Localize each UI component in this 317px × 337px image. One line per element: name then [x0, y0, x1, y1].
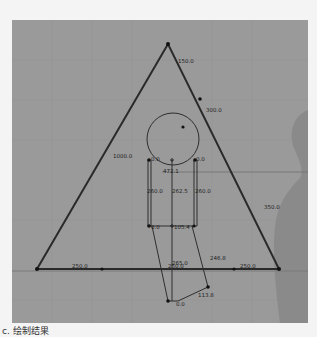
label-left-edge: 1000.0	[113, 153, 133, 159]
cropped-header-text	[0, 0, 317, 20]
label-right-upper-2: 300.0	[206, 107, 222, 113]
figure-caption: c. 绘制结果	[2, 326, 49, 337]
stick-figure	[147, 113, 208, 301]
label-lower-right: 246.8	[210, 255, 226, 261]
drawing-canvas[interactable]: 150.0 300.0 1000.0 350.0 250.0 250.0 250…	[12, 20, 308, 323]
figure-nodes	[147, 125, 210, 302]
label-bottom-right: 250.0	[240, 263, 256, 269]
label-center-vertical: 262.5	[172, 188, 188, 194]
human-silhouette	[274, 110, 308, 323]
label-foot-node: 0.0	[176, 301, 185, 307]
label-head: 472.1	[163, 168, 179, 174]
label-right-vertical: 260.0	[195, 188, 211, 194]
label-right-upper-1: 150.0	[178, 58, 194, 64]
label-left-vertical: 260.0	[147, 188, 163, 194]
label-right-node: 0.0	[196, 156, 205, 162]
label-bottom-left: 250.0	[72, 263, 88, 269]
background-grid	[12, 20, 308, 323]
label-hip-center: 105.4	[174, 224, 190, 230]
diagram-svg: 150.0 300.0 1000.0 350.0 250.0 250.0 250…	[12, 20, 308, 323]
label-left-node: 0.0	[151, 156, 160, 162]
label-foot: 113.8	[198, 292, 214, 298]
label-right-lower: 350.0	[264, 204, 280, 210]
label-lower-left: 265.0	[172, 260, 188, 266]
label-hip-left: 0.0	[151, 224, 160, 230]
